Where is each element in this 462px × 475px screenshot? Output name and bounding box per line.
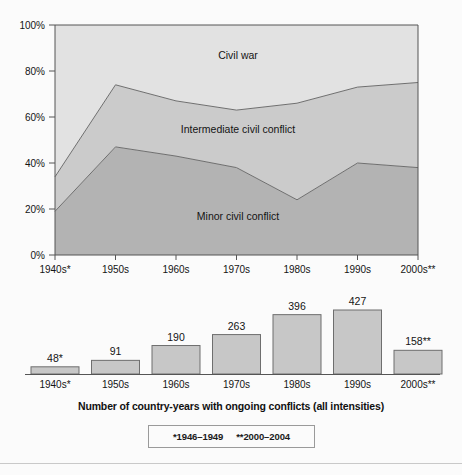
bar	[334, 310, 382, 374]
area-y-tick-label: 80%	[25, 66, 45, 77]
area-label-civil-war: Civil war	[218, 49, 258, 61]
area-label-intermediate-civil-conflict: Intermediate civil conflict	[181, 123, 295, 135]
bar-value-label: 190	[167, 331, 185, 343]
area-chart: 0%20%40%60%80%100% 1940s*1950s1960s1970s…	[19, 20, 435, 276]
bar-value-label: 158**	[405, 335, 431, 347]
area-x-tick-label: 1990s	[344, 264, 371, 275]
page-bottom-rule	[0, 463, 462, 464]
bar	[31, 367, 79, 374]
bar-value-label: 427	[349, 295, 367, 307]
bar-x-tick-label: 1990s	[344, 379, 371, 390]
area-y-tick-label: 0%	[31, 250, 46, 261]
area-y-tick-label: 60%	[25, 112, 45, 123]
bar-value-label: 263	[228, 320, 246, 332]
area-label-minor-civil-conflict: Minor civil conflict	[197, 210, 279, 222]
bar-x-tick-label: 1950s	[102, 379, 129, 390]
bar-x-tick-label: 1970s	[223, 379, 250, 390]
area-x-tick-label: 1950s	[102, 264, 129, 275]
area-y-tick-label: 100%	[19, 20, 45, 31]
footnote-first: *1946–1949	[173, 431, 223, 442]
bar-chart: 48*91190263396427158** 1940s*1950s1960s1…	[25, 295, 442, 390]
bar-value-label: 396	[288, 300, 306, 312]
footnote-box: *1946–1949 **2000–2004	[148, 425, 315, 448]
bar	[152, 346, 200, 374]
area-x-tick-label: 1970s	[223, 264, 250, 275]
figure-caption: Number of country-years with ongoing con…	[0, 400, 462, 412]
area-chart-y-ticks	[49, 25, 55, 255]
area-chart-y-tick-labels: 0%20%40%60%80%100%	[19, 20, 45, 261]
bar-value-label: 48*	[47, 352, 63, 364]
bar-x-tick-label: 2000s**	[400, 379, 435, 390]
area-x-tick-label: 1940s*	[39, 264, 70, 275]
figure-canvas: 0%20%40%60%80%100% 1940s*1950s1960s1970s…	[0, 0, 462, 475]
bar-x-tick-label: 1940s*	[39, 379, 70, 390]
area-x-tick-label: 2000s**	[400, 264, 435, 275]
bar-x-tick-label: 1980s	[283, 379, 310, 390]
bar-x-tick-label: 1960s	[162, 379, 189, 390]
bar	[92, 360, 140, 374]
area-chart-x-ticks	[55, 255, 418, 260]
area-y-tick-label: 40%	[25, 158, 45, 169]
area-y-tick-label: 20%	[25, 204, 45, 215]
bar-value-label: 91	[110, 345, 122, 357]
footnote-second: **2000–2004	[236, 431, 290, 442]
area-chart-x-tick-labels: 1940s*1950s1960s1970s1980s1990s2000s**	[39, 264, 435, 275]
area-x-tick-label: 1980s	[283, 264, 310, 275]
bar	[394, 350, 442, 374]
bar	[213, 335, 261, 374]
area-x-tick-label: 1960s	[162, 264, 189, 275]
bar-chart-x-tick-labels: 1940s*1950s1960s1970s1980s1990s2000s**	[39, 379, 435, 390]
bar	[273, 315, 321, 374]
